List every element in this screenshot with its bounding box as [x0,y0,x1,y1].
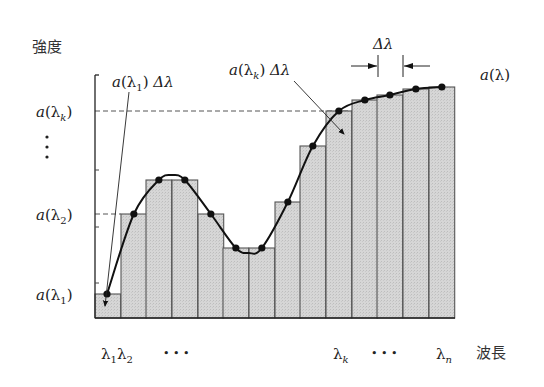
annotation-a-lambda1-delta: a(λ1) Δλ [112,73,174,93]
sample-point [412,85,419,92]
sample-point [309,142,316,149]
x-ellipsis-2: • • • [371,347,397,360]
sample-point [181,176,188,183]
bar [95,294,121,318]
y-label-a-lambda-1: a(λ1) [36,286,73,306]
arrow-a-lambdak-delta [294,81,344,134]
x-label-lambda-n: λn [436,345,452,365]
delta-lambda-marker [351,55,430,77]
bar [172,180,198,318]
curve-label: a(λ) [480,66,510,84]
bar [403,89,429,318]
bars [95,87,455,318]
bar [146,180,172,318]
spectrum-diagram: 強度 波長 a(λk) a(λ2) a(λ1) a(λ1) Δλ a(λk) Δ… [0,0,544,387]
bar [300,146,326,318]
vertical-ellipsis [45,135,48,158]
bar [223,248,249,318]
bar [249,248,275,318]
x-label-lambda-k: λk [333,345,349,365]
sample-point [155,176,162,183]
x-axis-label: 波長 [476,344,506,362]
annotation-a-lambdak-delta: a(λk) Δλ [229,61,290,81]
sample-point [284,198,291,205]
y-axis-label: 強度 [32,38,62,56]
sample-point [232,244,239,251]
x-ellipsis-1: • • • [163,347,189,360]
sample-point [386,91,393,98]
bar [121,214,147,318]
y-label-a-lambda-2: a(λ2) [36,206,73,226]
sample-point [335,107,342,114]
bar [326,111,352,318]
sample-point [438,83,445,90]
bar [198,214,224,318]
x-label-lambda-1-2: λ1λ2 [101,345,133,365]
sample-point [361,96,368,103]
bar [352,100,378,318]
bar [429,87,455,318]
y-label-a-lambda-k: a(λk) [36,103,72,123]
sample-point [258,244,265,251]
bar [377,95,403,318]
delta-lambda-label: Δλ [372,35,393,53]
sample-point [130,210,137,217]
sample-point [207,210,214,217]
